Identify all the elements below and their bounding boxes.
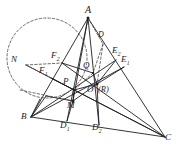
dashed-circle-N — [7, 18, 87, 98]
point-dot-P — [73, 89, 75, 91]
label-M: M — [67, 101, 75, 110]
dashed-D3-Q — [93, 44, 103, 73]
dashed-N-M — [20, 90, 73, 101]
label-E1: E1 — [121, 55, 129, 66]
label-B: B — [21, 112, 27, 121]
point-dot-A — [87, 17, 90, 20]
label-E2: E2 — [112, 46, 120, 57]
label-F1: F1 — [39, 66, 47, 77]
label-O: O — [87, 85, 94, 94]
label-F2: F2 — [51, 51, 59, 62]
label-A: A — [85, 5, 91, 15]
point-dot-Q — [92, 72, 94, 74]
geometry-figure-canvas: A N F2 F1 D E2 E1 Q P O (R) M B D1 D2 — [0, 0, 181, 155]
label-Q: Q — [83, 61, 90, 70]
label-D1: D1 — [60, 121, 69, 132]
label-D2: D2 — [92, 123, 101, 134]
label-P: P — [63, 77, 69, 86]
label-R: (R) — [98, 85, 109, 94]
pedal-edge-B-left — [31, 96, 46, 117]
geometry-svg — [0, 0, 181, 155]
label-C: C — [165, 133, 171, 142]
label-N: N — [11, 55, 17, 64]
label-D3: D — [98, 31, 104, 39]
